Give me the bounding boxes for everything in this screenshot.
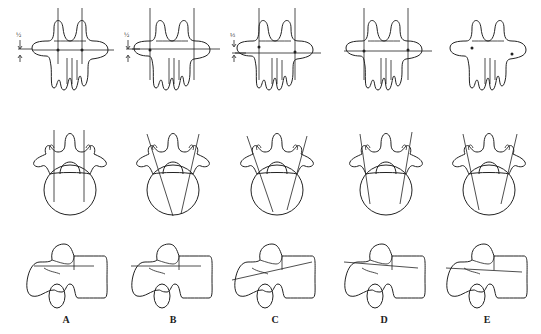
- lateral-view-d: [344, 244, 425, 308]
- panel-b: [126, 8, 220, 308]
- axial-view-c: [241, 134, 314, 216]
- panel-d: [344, 8, 432, 308]
- posterior-view-a: [32, 8, 114, 90]
- panel-label-d: D: [380, 314, 387, 325]
- panel-c: [232, 8, 321, 308]
- posterior-view-c: [235, 8, 321, 90]
- lateral-view-e: [446, 244, 527, 308]
- panel-a: [18, 8, 114, 308]
- axial-view-d: [350, 132, 423, 215]
- posterior-view-e: [450, 21, 526, 91]
- vertebra-trajectory-figure: [0, 0, 541, 334]
- panel-label-b: B: [170, 314, 177, 325]
- fraction-label-a: ½: [16, 31, 21, 39]
- fraction-label-b: ½: [124, 31, 129, 39]
- lateral-view-b: [131, 244, 212, 308]
- lateral-view-c: [232, 244, 315, 308]
- lateral-view-a: [27, 244, 107, 308]
- axial-view-e: [453, 134, 526, 216]
- panel-e: [446, 21, 527, 309]
- panel-label-c: C: [271, 314, 278, 325]
- posterior-view-b: [132, 8, 220, 90]
- fraction-marker-a: [18, 40, 32, 62]
- axial-view-a: [34, 130, 107, 215]
- posterior-view-d: [344, 8, 432, 90]
- panel-label-a: A: [62, 314, 69, 325]
- fraction-label-c: ⅓: [230, 31, 235, 39]
- panel-label-e: E: [484, 314, 491, 325]
- axial-view-b: [137, 134, 210, 217]
